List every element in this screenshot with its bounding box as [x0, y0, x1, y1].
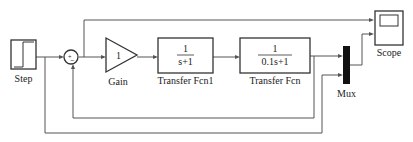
wire-mux-scope — [350, 34, 372, 65]
gain-label: Gain — [108, 76, 127, 87]
arrow-head — [369, 32, 374, 36]
arrow-head — [235, 55, 240, 59]
arrow-head — [369, 18, 374, 22]
gain-value: 1 — [116, 50, 121, 61]
arrow-head — [101, 55, 106, 59]
arrow-head — [153, 55, 158, 59]
scope-label: Scope — [377, 47, 402, 58]
transfer-fcn1-block[interactable]: 1 s+1 Transfer Fcn1 — [157, 38, 213, 86]
arrow-head — [59, 55, 64, 59]
scope-screen-icon — [380, 15, 398, 26]
mux-bar — [343, 46, 350, 84]
tf2-numerator: 1 — [273, 43, 278, 54]
sum-block[interactable]: + − — [64, 50, 78, 64]
tf1-label: Transfer Fcn1 — [157, 75, 213, 86]
step-block[interactable]: Step — [11, 40, 36, 84]
scope-block[interactable]: Scope — [375, 11, 403, 58]
tf1-numerator: 1 — [183, 43, 188, 54]
gain-block[interactable]: 1 Gain — [106, 38, 137, 87]
mux-label: Mux — [337, 88, 356, 99]
sum-minus-sign: − — [70, 57, 74, 64]
block-diagram: Step + − 1 Gain 1 s+1 Transfer Fcn1 1 0.… — [0, 0, 413, 142]
tf2-denominator: 0.1s+1 — [261, 56, 288, 67]
transfer-fcn-block[interactable]: 1 0.1s+1 Transfer Fcn — [240, 38, 310, 86]
tf1-denominator: s+1 — [178, 56, 193, 67]
arrow-head — [338, 73, 343, 77]
arrow-head — [71, 64, 75, 69]
arrow-head — [338, 54, 343, 58]
mux-block[interactable]: Mux — [337, 46, 356, 99]
step-label: Step — [15, 73, 33, 84]
tf2-label: Transfer Fcn — [249, 75, 300, 86]
